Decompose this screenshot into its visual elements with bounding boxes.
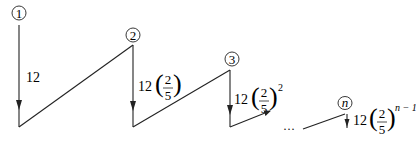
rise-line-n [303,114,345,129]
left-paren: ( [155,69,164,98]
arrowhead-down-icon [16,100,22,110]
right-paren: ) [173,69,182,98]
svg-text:5: 5 [379,122,386,137]
right-paren: ) [269,82,278,111]
node-2: 2 [126,28,140,43]
drop-label-1: 12 [26,70,40,85]
left-paren: ( [251,82,260,111]
node-label-1: 1 [16,6,23,21]
rise-line-1 [19,45,133,127]
left-paren: ( [369,103,378,132]
arrowhead-down-icon [227,105,233,115]
svg-text:12: 12 [234,92,248,107]
node-label-2: 2 [130,28,137,43]
drop-label-n: 12 ( 2 5 ) n − 1 [353,102,416,137]
node-3: 3 [225,52,239,67]
svg-text:n − 1: n − 1 [395,102,416,113]
svg-text:2: 2 [379,106,386,121]
svg-text:5: 5 [165,88,172,103]
arrowhead-down-icon [130,101,136,111]
diagram-canvas: 1 12 2 12 ( 2 5 ) 3 12 ( 2 5 ) 2 ··· [0,0,416,142]
drop-label-2: 12 ( 2 5 ) [138,69,182,103]
drop-label-3: 12 ( 2 5 ) 2 [234,82,283,116]
ellipsis: ··· [283,122,295,136]
svg-text:12: 12 [353,113,367,128]
rise-line-3 [230,111,270,127]
node-label-n: n [342,95,349,110]
svg-text:12: 12 [138,79,152,94]
node-1: 1 [12,6,26,21]
node-n: n [338,95,352,110]
svg-text:2: 2 [165,72,172,87]
arrowhead-down-icon [345,119,350,127]
svg-text:2: 2 [278,82,283,93]
node-label-3: 3 [229,52,236,67]
svg-text:2: 2 [261,85,268,100]
